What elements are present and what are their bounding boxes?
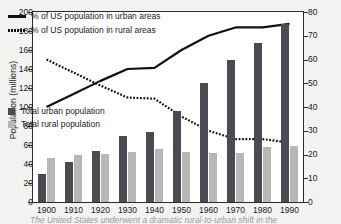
bar-urban-1910 (65, 162, 73, 202)
bar-rural-1950 (182, 152, 190, 202)
y-tick-mark-right-40 (304, 107, 308, 108)
legend-label-urban-line: % of US population in urban areas (31, 12, 160, 21)
y-tick-mark-right-20 (304, 155, 308, 156)
bar-rural-1910 (74, 155, 82, 203)
bar-urban-1920 (92, 151, 100, 202)
dotted-line-icon (8, 29, 26, 32)
rural-swatch-icon (8, 121, 15, 128)
x-tick-1990: 1990 (273, 206, 307, 215)
chart-title-cropped (0, 0, 341, 5)
bar-urban-1940 (146, 132, 154, 202)
y-tick-right-40: 40 (308, 103, 334, 112)
bar-urban-1960 (200, 83, 208, 202)
bar-rural-1920 (101, 154, 109, 202)
y-tick-right-70: 70 (308, 31, 334, 40)
bar-urban-1980 (254, 43, 262, 202)
y-tick-mark-right-50 (304, 83, 308, 84)
legend-label-rural-bar: Total rural population (21, 120, 100, 129)
bar-urban-1950 (173, 111, 181, 202)
bar-rural-1990 (290, 146, 298, 202)
figure-caption: The United States underwent a dramatic r… (30, 215, 330, 224)
bar-rural-1980 (263, 147, 271, 202)
chart-figure: Population (millions) Percentage of popu… (0, 0, 341, 224)
y-tick-mark-right-80 (304, 12, 308, 13)
y-tick-right-60: 60 (308, 55, 334, 64)
solid-line-icon (8, 15, 26, 18)
y-tick-mark-right-30 (304, 131, 308, 132)
y-tick-right-50: 50 (308, 79, 334, 88)
bar-rural-1900 (47, 158, 55, 202)
bar-rural-1960 (209, 153, 217, 202)
legend-label-rural-line: % of US population in rural areas (31, 26, 156, 35)
bar-rural-1930 (128, 152, 136, 202)
legend-item-urban-line: % of US population in urban areas (8, 12, 160, 21)
legend-label-urban-bar: Total urban population (21, 107, 105, 116)
bar-urban-1900 (38, 174, 46, 203)
y-tick-mark-right-10 (304, 178, 308, 179)
legend-item-rural-bar: Total rural population (3, 120, 100, 129)
y-tick-mark-right-70 (304, 36, 308, 37)
bar-urban-1990 (281, 24, 289, 202)
bar-urban-1930 (119, 136, 127, 202)
y-tick-right-80: 80 (308, 8, 334, 17)
legend-item-rural-line: % of US population in rural areas (8, 26, 156, 35)
y-tick-right-30: 30 (308, 126, 334, 135)
bar-rural-1970 (236, 153, 244, 202)
y-tick-mark-right-0 (304, 202, 308, 203)
bar-urban-1970 (227, 60, 235, 202)
y-tick-right-0: 0 (308, 198, 334, 207)
y-tick-mark-right-60 (304, 60, 308, 61)
bar-rural-1940 (155, 149, 163, 202)
y-tick-right-10: 10 (308, 174, 334, 183)
legend-item-urban-bar: Total urban population (3, 107, 105, 116)
y-tick-right-20: 20 (308, 150, 334, 159)
urban-swatch-icon (8, 108, 15, 115)
